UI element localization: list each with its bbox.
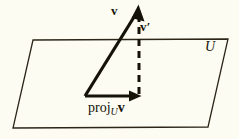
label-vector-v: v xyxy=(111,4,118,17)
label-vector-v-prime-mark: ′ xyxy=(147,19,151,34)
projection-diagram: v v′ U projUv xyxy=(0,0,239,139)
label-projection-vector: v xyxy=(118,100,125,115)
label-projection: projUv xyxy=(88,101,125,117)
label-projection-operator: proj xyxy=(88,100,111,115)
label-subspace-u: U xyxy=(205,40,215,54)
label-vector-v-prime: v′ xyxy=(140,20,150,33)
diagram-canvas xyxy=(0,0,239,139)
label-projection-subscript: U xyxy=(111,106,118,117)
